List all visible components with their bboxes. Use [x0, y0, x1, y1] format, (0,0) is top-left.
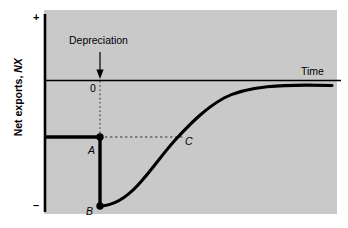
x-axis-title: Time: [301, 66, 324, 77]
point-a-label: A: [88, 145, 95, 156]
depreciation-arrow-head: [96, 70, 103, 80]
y-axis-positive-sign: +: [33, 12, 39, 23]
point-b-label: B: [86, 206, 93, 217]
origin-label: 0: [90, 83, 96, 94]
point-a-marker: [96, 133, 103, 140]
depreciation-annotation-label: Depreciation: [69, 35, 128, 46]
y-axis-negative-sign: –: [33, 200, 39, 211]
point-c-label: C: [185, 136, 193, 147]
j-curve-figure: Net exports, NX + – Depreciation 0 Time …: [0, 0, 348, 228]
y-axis-title-text: Net exports,: [12, 73, 24, 137]
chart-canvas: [0, 0, 348, 228]
y-axis-title-symbol: NX: [12, 58, 24, 73]
j-curve-path: [101, 85, 333, 206]
point-b-marker: [96, 202, 103, 209]
y-axis-title: Net exports, NX: [13, 52, 24, 142]
